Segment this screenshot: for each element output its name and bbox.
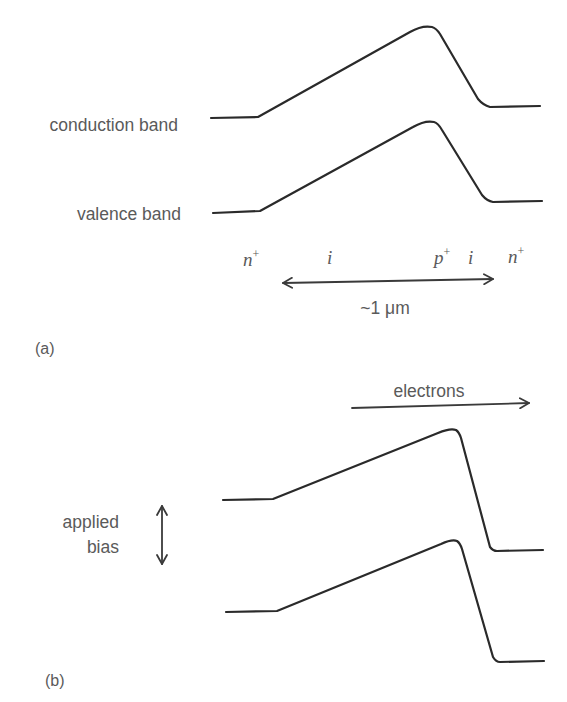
dimension-label: ~1 μm: [360, 298, 409, 318]
valence-band-curve-a: [213, 122, 542, 213]
conduction-band-curve-b: [223, 429, 543, 551]
conduction-band-curve-a: [211, 27, 540, 118]
applied-bias-label-line1: applied: [63, 512, 119, 532]
valence-band-curve-b: [226, 540, 544, 662]
valence-band-label: valence band: [77, 204, 181, 224]
region-intrinsic-right: i: [468, 247, 473, 268]
band-diagram-figure: conduction band valence band n+ i p+ i n…: [0, 0, 567, 702]
electron-flow-arrow-icon: [352, 403, 529, 408]
panel-b-label: (b): [45, 672, 65, 689]
conduction-band-label: conduction band: [50, 115, 178, 135]
dimension-double-arrow-icon: [283, 279, 493, 283]
region-p-plus: p+: [432, 245, 451, 268]
region-n-plus-right: n+: [508, 244, 525, 267]
electrons-label: electrons: [393, 381, 464, 401]
region-n-plus-left: n+: [243, 247, 260, 270]
region-intrinsic-left: i: [327, 247, 332, 268]
applied-bias-label-line2: bias: [87, 537, 119, 557]
panel-a-label: (a): [35, 340, 55, 357]
panel-b: electrons applied bias (b): [45, 381, 544, 689]
panel-a: conduction band valence band n+ i p+ i n…: [35, 27, 542, 357]
